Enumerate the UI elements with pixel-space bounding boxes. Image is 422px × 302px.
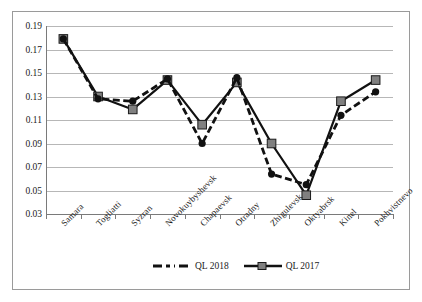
x-tick-mark [81, 214, 82, 219]
data-point-ql-2017-syzran [128, 105, 137, 114]
legend-label-ql-2017: QL 2017 [286, 261, 320, 271]
data-point-ql-2018-chapaevsk [199, 140, 206, 147]
x-tick-mark [46, 214, 47, 219]
chart-container: 0.190.170.150.130.110.090.070.050.03 Sam… [0, 0, 422, 302]
data-point-ql-2018-kinel [337, 112, 344, 119]
data-point-ql-2017-chapaevsk [198, 120, 207, 129]
series-line-ql-2017 [63, 39, 375, 195]
legend-item-ql-2018[interactable]: QL 2018 [152, 261, 229, 271]
legend-item-ql-2017[interactable]: QL 2017 [243, 261, 320, 271]
data-point-ql-2018-togliatti [94, 95, 101, 102]
series-line-ql-2018 [63, 39, 375, 185]
data-point-ql-2018-otradny [233, 74, 240, 81]
data-point-ql-2018-novokuybyshevsk [164, 75, 171, 82]
data-point-ql-2017-oktyabrsk [302, 191, 311, 200]
data-point-ql-2017-kinel [337, 97, 346, 106]
series-layer [0, 0, 422, 302]
x-tick-mark [115, 214, 116, 219]
x-tick-mark [393, 214, 394, 219]
data-point-ql-2018-samara [60, 35, 67, 42]
x-tick-mark [185, 214, 186, 219]
legend-swatch-dashed-circle [152, 261, 192, 271]
data-point-ql-2018-zhigulevsk [268, 170, 275, 177]
data-point-ql-2017-zhigulevsk [267, 139, 276, 148]
x-tick-mark [150, 214, 151, 219]
data-point-ql-2018-oktyabrsk [303, 181, 310, 188]
data-point-ql-2018-syzran [129, 98, 136, 105]
x-tick-mark [289, 214, 290, 219]
chart-legend: QL 2018 QL 2017 [152, 258, 372, 274]
data-point-ql-2018-pokhvistnevo [372, 88, 379, 95]
x-tick-mark [358, 214, 359, 219]
legend-label-ql-2018: QL 2018 [195, 261, 229, 271]
legend-swatch-solid-square [243, 261, 283, 271]
x-tick-mark [220, 214, 221, 219]
data-point-ql-2017-pokhvistnevo [371, 76, 380, 85]
x-tick-mark [254, 214, 255, 219]
x-tick-mark [324, 214, 325, 219]
